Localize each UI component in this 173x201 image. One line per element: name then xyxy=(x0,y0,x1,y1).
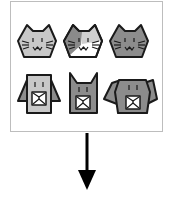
dog-icon-dark-gray xyxy=(104,80,157,113)
cat-icon-light-gray xyxy=(18,25,56,57)
down-arrow-icon xyxy=(78,133,96,190)
dog-icon-light-gray xyxy=(18,75,60,113)
cat-icon-dark-gray xyxy=(110,25,148,57)
cat-icon-calico xyxy=(64,25,102,57)
cat-square-icon-dark-gray xyxy=(70,73,97,113)
diagram-canvas xyxy=(0,0,173,201)
